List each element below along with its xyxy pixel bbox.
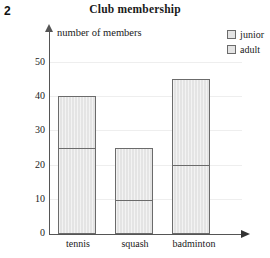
legend-swatch-adult-icon (227, 45, 236, 54)
y-tick-label-10: 10 (19, 193, 45, 204)
y-tick-label-20: 20 (19, 159, 45, 170)
bar-segment-badminton-adult (172, 165, 210, 234)
legend-item-junior: junior (227, 28, 264, 41)
y-tick-label-30: 30 (19, 124, 45, 135)
y-tick-label-50: 50 (19, 56, 45, 67)
legend-label-adult: adult (240, 43, 260, 56)
legend-label-junior: junior (240, 28, 264, 41)
bar-segment-tennis-junior (58, 96, 96, 149)
bar-segment-squash-adult (115, 200, 153, 234)
y-tick-label-40: 40 (19, 90, 45, 101)
y-axis (49, 30, 50, 235)
y-axis-label: number of members (57, 27, 142, 38)
x-label-squash: squash (105, 238, 165, 249)
legend: junior adult (227, 28, 264, 58)
gridline-50 (50, 62, 242, 63)
x-axis-arrow-icon (241, 230, 250, 238)
legend-item-adult: adult (227, 43, 264, 56)
bar-segment-badminton-junior (172, 79, 210, 166)
bar-segment-squash-junior (115, 148, 153, 201)
x-label-badminton: badminton (158, 238, 230, 249)
y-tick-label-0: 0 (19, 227, 45, 238)
bar-segment-tennis-adult (58, 148, 96, 234)
legend-swatch-junior-icon (227, 30, 236, 39)
x-axis (49, 234, 243, 235)
x-label-tennis: tennis (48, 238, 108, 249)
